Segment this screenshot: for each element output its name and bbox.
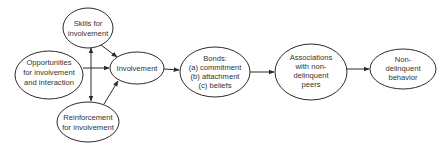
node-involvement: Involvement [110, 52, 164, 84]
node-associations-label-line-3: delinquent [293, 71, 329, 80]
node-nondelinquent: Non- delinquent behavior [370, 49, 436, 89]
node-opportunities-label-line-3: and interaction [24, 78, 74, 87]
node-reinforcement: Reinforcement for involvement [57, 102, 119, 142]
node-skills-ellipse [63, 8, 113, 48]
node-skills-label-line-1: Skills for [74, 19, 103, 28]
node-bonds-label-line-1: Bonds: [203, 54, 227, 63]
node-associations-label-line-4: peers [302, 80, 321, 89]
node-bonds-label-line-4: (c) beliefs [199, 81, 232, 90]
node-reinforcement-label-line-1: Reinforcement [63, 113, 113, 122]
node-associations-label-line-1: Associations [290, 53, 333, 62]
edge-reinforcement-to-involvement [104, 81, 118, 104]
node-opportunities-label-line-2: for involvement [23, 68, 75, 77]
node-involvement-label: Involvement [117, 64, 159, 73]
node-bonds-label-line-2: (a) commitment [189, 63, 243, 72]
node-associations-label-line-2: with non- [295, 62, 327, 71]
node-skills: Skills for involvement [63, 8, 113, 48]
node-nondelinquent-label-line-3: behavior [388, 73, 418, 82]
node-opportunities: Opportunities for involvement and intera… [15, 51, 83, 99]
node-opportunities-label-line-1: Opportunities [26, 58, 71, 67]
node-nondelinquent-label-line-1: Non- [395, 55, 412, 64]
node-associations: Associations with non- delinquent peers [275, 44, 347, 100]
node-bonds: Bonds: (a) commitment (b) attachment (c)… [180, 47, 250, 97]
node-reinforcement-ellipse [57, 102, 119, 142]
node-skills-label-line-2: involvement [68, 29, 109, 38]
edge-involvement-to-bonds [164, 69, 179, 70]
node-bonds-label-line-3: (b) attachment [191, 72, 241, 81]
node-nondelinquent-label-line-2: delinquent [385, 64, 421, 73]
node-reinforcement-label-line-2: for involvement [62, 123, 114, 132]
edge-skills-to-involvement [101, 45, 117, 57]
diagram-canvas: Skills for involvement Opportunities for… [0, 0, 446, 147]
